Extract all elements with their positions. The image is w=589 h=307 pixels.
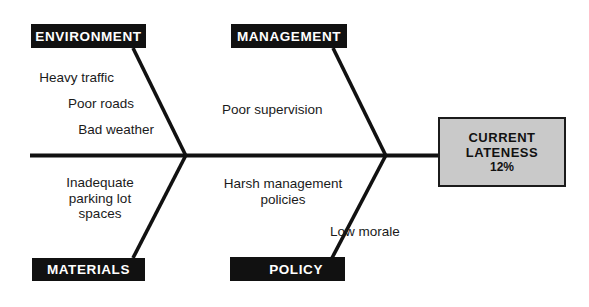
category-box-environment[interactable]: ENVIRONMENT	[31, 24, 146, 48]
cause-materials-1: Inadequate parking lot spaces	[52, 175, 148, 222]
cause-environment-3: Bad weather	[50, 122, 154, 138]
category-box-management[interactable]: MANAGEMENT	[231, 24, 347, 48]
cause-environment-1: Heavy traffic	[10, 70, 114, 86]
category-label-management: MANAGEMENT	[237, 29, 341, 44]
branch-line-environment	[133, 48, 186, 156]
cause-policy-2: Low morale	[330, 224, 430, 240]
effect-box[interactable]: CURRENT LATENESS 12%	[438, 117, 566, 187]
category-label-policy: POLICY	[269, 262, 323, 277]
effect-line-1: CURRENT	[468, 130, 535, 145]
cause-environment-2: Poor roads	[30, 96, 134, 112]
cause-management-1: Poor supervision	[222, 102, 352, 118]
fishbone-diagram: ENVIRONMENT MANAGEMENT MATERIALS POLICY …	[0, 0, 589, 307]
category-box-materials[interactable]: MATERIALS	[32, 258, 145, 281]
category-box-policy[interactable]: POLICY	[230, 257, 345, 281]
cause-policy-1: Harsh management policies	[220, 176, 346, 207]
effect-line-2: LATENESS	[466, 145, 538, 160]
category-label-environment: ENVIRONMENT	[35, 29, 141, 44]
category-label-materials: MATERIALS	[47, 262, 130, 277]
effect-value: 12%	[490, 160, 514, 175]
